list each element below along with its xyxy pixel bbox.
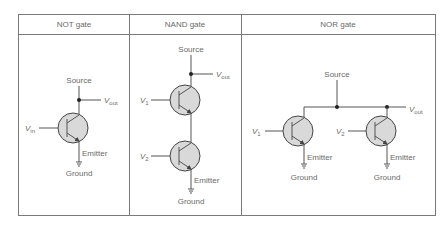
nor-left-emitter-label: Emitter <box>307 153 333 162</box>
transistor-body <box>170 141 200 171</box>
transistor-body <box>58 113 88 143</box>
nand-junction-dot <box>189 72 193 76</box>
transistor-body <box>283 116 313 146</box>
ground-icon <box>188 189 194 193</box>
nor-v2-label: V2 <box>336 127 345 137</box>
nor-transistor-1 <box>283 116 313 146</box>
not-gate-circuit: Source Vout Vin Emitter Ground <box>25 76 118 178</box>
ground-icon <box>76 162 82 166</box>
nor-right-ground-label: Ground <box>374 173 401 182</box>
nor-vout-label: Vout <box>409 105 423 115</box>
nand-v1-label: V1 <box>140 96 149 106</box>
header-nand-gate: NAND gate <box>165 20 206 29</box>
header-not-gate: NOT gate <box>57 20 92 29</box>
nor-source-dot <box>335 105 339 109</box>
transistor-body <box>170 85 200 115</box>
header-nor-gate: NOR gate <box>320 20 356 29</box>
nand-gate-circuit: Source Vout V1 V2 Emitter Ground <box>140 45 230 206</box>
not-source-label: Source <box>66 76 92 85</box>
nand-ground-label: Ground <box>178 197 205 206</box>
not-junction-dot <box>77 98 81 102</box>
nor-transistor-2 <box>366 116 396 146</box>
nand-vout-label: Vout <box>216 70 230 80</box>
nand-transistor-1 <box>170 85 200 115</box>
nor-source-label: Source <box>324 70 350 79</box>
nor-gate-circuit: Source Vout V1 Emitter Ground <box>252 70 423 182</box>
nand-emitter-label: Emitter <box>194 176 220 185</box>
logic-gates-diagram: NOT gate NAND gate NOR gate Source Vout … <box>0 0 447 227</box>
not-emitter-label: Emitter <box>82 149 108 158</box>
nor-left-ground-label: Ground <box>291 173 318 182</box>
nand-transistor-2 <box>170 141 200 171</box>
not-vout-label: Vout <box>104 96 118 106</box>
nand-v2-label: V2 <box>140 152 149 162</box>
not-ground-label: Ground <box>66 169 93 178</box>
transistor-body <box>366 116 396 146</box>
not-transistor <box>58 113 88 143</box>
not-vin-label: Vin <box>25 124 35 134</box>
nand-source-label: Source <box>178 45 204 54</box>
ground-icon <box>301 164 307 168</box>
nor-v1-label: V1 <box>252 127 261 137</box>
ground-icon <box>384 164 390 168</box>
nor-right-emitter-label: Emitter <box>390 153 416 162</box>
